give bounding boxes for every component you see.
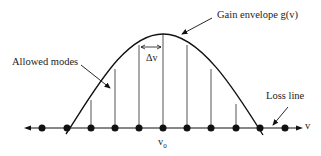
gain-envelope-label: Gain envelope g(v) <box>217 9 298 20</box>
center-frequency-label: v0 <box>158 136 167 150</box>
allowed-modes-label: Allowed modes <box>12 56 78 67</box>
laser-mode-diagram <box>0 0 321 156</box>
gain-envelope-curve <box>66 34 263 135</box>
mode-lines <box>91 34 236 128</box>
axis-v-label: v <box>305 120 310 131</box>
center-frequency-subscript: 0 <box>163 142 167 150</box>
delta-v-label: Δv <box>146 52 157 63</box>
delta-v-arrow <box>141 45 161 49</box>
allowed-modes-pointer <box>81 65 110 88</box>
loss-line-label: Loss line <box>266 90 304 101</box>
gain-envelope-pointer <box>182 18 212 34</box>
loss-line-pointer <box>273 107 288 125</box>
